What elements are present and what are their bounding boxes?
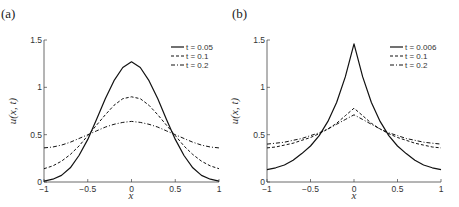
panel-a: (a) −1−0.500.5100.511.5 x u(x, t) t = 0.…: [1, 6, 222, 201]
legend-entry: t = 0.1: [186, 52, 209, 61]
legend-b: t = 0.006 t = 0.1 t = 0.2: [390, 43, 437, 70]
legend-entry: t = 0.05: [186, 43, 213, 52]
y-axis-label-a: u(x, t): [6, 98, 19, 125]
y-tick-label: 1.5: [253, 35, 265, 45]
x-axis-label-a: x: [128, 189, 134, 201]
series-line-dashdot: [267, 115, 441, 144]
y-tick-label: 1.5: [30, 35, 42, 45]
figure: (a) −1−0.500.5100.511.5 x u(x, t) t = 0.…: [0, 0, 459, 207]
legend-a: t = 0.05 t = 0.1 t = 0.2: [171, 43, 213, 70]
series-line-dashdot: [44, 121, 219, 147]
y-tick-label: 0: [260, 177, 265, 187]
legend-entry: t = 0.2: [186, 61, 209, 70]
legend-entry: t = 0.1: [405, 52, 428, 61]
x-tick-label: −0.5: [79, 184, 96, 194]
series-line-dashed: [267, 108, 441, 148]
x-tick-label: 1: [217, 184, 222, 194]
panel-b: (b) −1−0.500.5100.511.5 x u(x, t) t = 0.…: [228, 6, 444, 201]
y-tick-label: 0: [37, 177, 42, 187]
y-tick-label: 0.5: [253, 130, 265, 140]
y-axis-label-b: u(x, t): [228, 98, 241, 125]
legend-entry: t = 0.2: [405, 61, 428, 70]
panel-label-a: (a): [1, 6, 15, 21]
legend-entry: t = 0.006: [405, 43, 437, 52]
y-tick-label: 1: [37, 82, 42, 92]
x-tick-label: 0.5: [169, 184, 181, 194]
plot-a-lines: [44, 62, 219, 181]
y-tick-label: 1: [260, 82, 265, 92]
panel-label-b: (b): [232, 6, 247, 21]
x-tick-label: 1: [439, 184, 444, 194]
x-axis-label-b: x: [351, 189, 357, 201]
series-line-dashed: [44, 97, 219, 169]
y-tick-label: 0.5: [30, 130, 42, 140]
x-tick-label: −0.5: [302, 184, 319, 194]
x-tick-label: 0.5: [392, 184, 404, 194]
